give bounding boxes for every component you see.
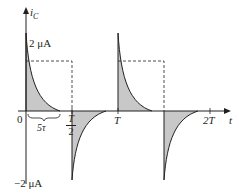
half-period-numerator: T [68, 113, 74, 124]
negative-peak-label: −2 μA [14, 178, 42, 189]
five-tau-brace [28, 114, 60, 121]
origin-label: 0 [17, 114, 23, 125]
five-tau-label: 5τ [37, 123, 46, 133]
period-label: T [114, 115, 120, 126]
y-axis-label: iC [30, 7, 38, 21]
half-period-denominator: 2 [69, 126, 74, 137]
x-axis-label: t [229, 115, 232, 126]
half-period-label: T 2 [66, 114, 76, 137]
capacitor-current-waveform [0, 0, 239, 196]
positive-peak-label: 2 μA [29, 38, 51, 49]
double-period-label: 2T [203, 115, 215, 126]
y-axis-arrow-icon [23, 7, 29, 14]
